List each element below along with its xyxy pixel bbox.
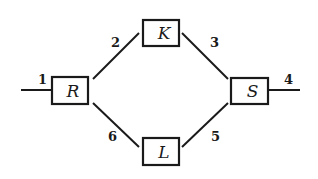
edge-label-2: 2: [111, 35, 120, 50]
node-K: K: [143, 20, 179, 46]
nodes-layer: RKSL: [52, 20, 268, 165]
node-label-L: L: [157, 142, 169, 162]
edge-3: [182, 33, 228, 79]
edge-label-1: 1: [38, 72, 47, 87]
edge-label-3: 3: [210, 35, 219, 50]
node-label-R: R: [66, 81, 80, 101]
edge-5: [182, 103, 228, 147]
edge-label-6: 6: [108, 129, 117, 144]
node-R: R: [52, 77, 88, 104]
node-L: L: [143, 138, 179, 165]
node-label-S: S: [247, 81, 259, 101]
node-S: S: [231, 78, 268, 104]
network-diagram: RKSL 123456: [0, 0, 318, 179]
edge-label-5: 5: [211, 129, 220, 144]
edge-label-4: 4: [284, 72, 293, 87]
node-label-K: K: [157, 23, 172, 43]
